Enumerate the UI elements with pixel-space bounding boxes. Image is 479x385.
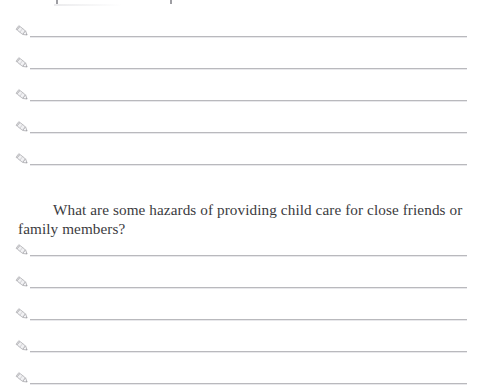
pencil-icon <box>14 55 31 72</box>
answer-rule <box>30 319 467 320</box>
answer-line-lower-4[interactable] <box>0 332 479 352</box>
answer-rule <box>30 255 467 256</box>
answer-rule <box>30 351 467 352</box>
answer-line-lower-2[interactable] <box>0 268 479 288</box>
pencil-icon <box>14 119 31 136</box>
answer-line-upper-2[interactable] <box>0 49 479 69</box>
pencil-icon <box>14 338 31 355</box>
pencil-icon <box>14 370 31 385</box>
answer-rule <box>30 383 467 384</box>
answer-line-lower-5[interactable] <box>0 364 479 384</box>
answer-rule <box>30 68 467 69</box>
document-page: What are some hazards of providing child… <box>0 0 479 385</box>
text-remnant-smear <box>54 4 178 6</box>
pencil-icon <box>14 242 31 259</box>
answer-rule <box>30 164 467 165</box>
answer-rule <box>30 100 467 101</box>
answer-rule <box>30 132 467 133</box>
answer-line-lower-1[interactable] <box>0 236 479 256</box>
answer-rule <box>30 287 467 288</box>
cropped-text-remnant <box>0 0 479 7</box>
pencil-icon <box>14 23 31 40</box>
answer-line-upper-1[interactable] <box>0 17 479 37</box>
answer-line-upper-5[interactable] <box>0 145 479 165</box>
answer-rule <box>30 36 467 37</box>
pencil-icon <box>14 87 31 104</box>
answer-line-upper-4[interactable] <box>0 113 479 133</box>
question-text: What are some hazards of providing child… <box>18 201 470 238</box>
pencil-icon <box>14 306 31 323</box>
pencil-icon <box>14 151 31 168</box>
answer-line-lower-3[interactable] <box>0 300 479 320</box>
pencil-icon <box>14 274 31 291</box>
answer-line-upper-3[interactable] <box>0 81 479 101</box>
